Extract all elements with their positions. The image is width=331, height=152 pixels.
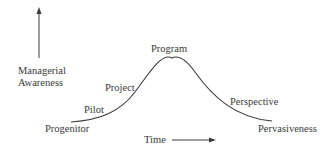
stage-label-pilot: Pilot	[84, 104, 104, 116]
stage-label-program: Program	[151, 43, 187, 55]
x-axis-label: Time	[144, 134, 166, 146]
y-axis-label-line2: Awareness	[18, 77, 63, 89]
awareness-curve-diagram: Managerial Awareness Progenitor Pilot Pr…	[0, 0, 331, 152]
stage-label-perspective: Perspective	[230, 96, 278, 108]
y-axis-label-line1: Managerial	[18, 65, 66, 77]
stage-label-project: Project	[105, 82, 135, 94]
x-axis-arrow	[172, 138, 216, 143]
stage-label-pervasiveness: Pervasiveness	[258, 123, 317, 135]
stage-label-progenitor: Progenitor	[45, 123, 89, 135]
y-axis-arrow	[37, 7, 42, 58]
